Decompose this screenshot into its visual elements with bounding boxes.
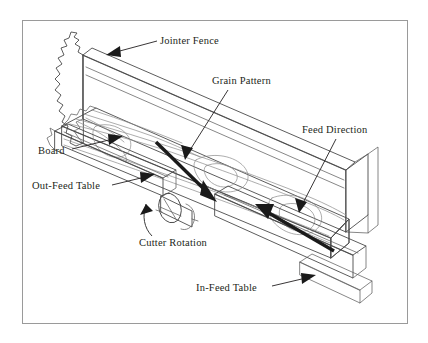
label-board: Board [38, 145, 65, 156]
callout-leaders [72, 41, 336, 286]
callout-labels: Jointer Fence Grain Pattern Feed Directi… [32, 35, 368, 293]
label-jointer-fence: Jointer Fence [160, 35, 219, 46]
jointer-diagram: Jointer Fence Grain Pattern Feed Directi… [0, 0, 428, 343]
label-in-feed-table: In-Feed Table [196, 282, 257, 293]
label-out-feed-table: Out-Feed Table [32, 180, 100, 191]
feed-direction-arrow [255, 204, 334, 251]
figure-root: Jointer Fence Grain Pattern Feed Directi… [0, 0, 428, 343]
label-cutter-rotation: Cutter Rotation [139, 237, 208, 248]
label-grain-pattern: Grain Pattern [212, 75, 271, 86]
cutter-rotation-arc [140, 204, 153, 236]
cutterhead-shape [155, 191, 198, 230]
label-feed-direction: Feed Direction [302, 124, 368, 135]
